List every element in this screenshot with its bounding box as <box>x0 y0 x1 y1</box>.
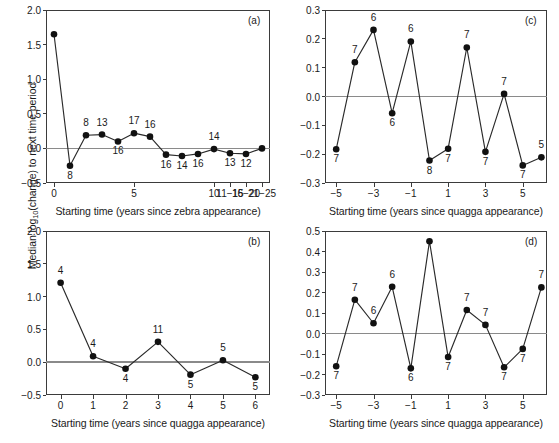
sample-size-label: 7 <box>352 282 358 293</box>
sample-size-label: 7 <box>483 307 489 318</box>
sample-size-label: 6 <box>371 305 377 316</box>
x-axis-title: Starting time (years since quagga appear… <box>325 417 547 429</box>
data-point <box>445 354 452 361</box>
sample-size-label: 7 <box>445 361 451 372</box>
sample-size-label: 6 <box>389 269 395 280</box>
series-line <box>336 241 541 368</box>
panel-d: 0.50.40.30.20.10.0−0.1−0.2−0.3−5−3−11357… <box>0 0 559 443</box>
data-point <box>389 283 396 290</box>
data-point <box>408 365 415 372</box>
sample-size-label: 7 <box>333 370 339 381</box>
data-point <box>538 284 545 291</box>
sample-size-label: 7 <box>520 353 526 364</box>
data-point <box>501 364 508 371</box>
data-point <box>519 346 526 353</box>
data-point <box>333 363 340 370</box>
data-point <box>482 322 489 329</box>
data-point <box>463 307 470 314</box>
data-point <box>352 296 359 303</box>
sample-size-label: 7 <box>464 292 470 303</box>
sample-size-label: 6 <box>408 372 414 383</box>
data-series <box>0 0 559 443</box>
figure-container: Median log10(change) to next time period… <box>0 0 559 443</box>
data-point <box>426 238 433 245</box>
data-point <box>370 320 377 327</box>
sample-size-label: 7 <box>539 269 545 280</box>
panel-label: (d) <box>525 236 537 247</box>
sample-size-label: 7 <box>501 371 507 382</box>
